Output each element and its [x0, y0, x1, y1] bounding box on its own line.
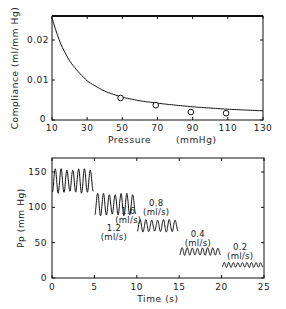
- top-x-axis-label-left: Pressure: [108, 135, 151, 145]
- y-tick-label: 0: [41, 273, 47, 283]
- x-tick-label: 0: [49, 282, 55, 292]
- y-tick-label: 50: [35, 238, 47, 248]
- figure: 1030507090110130 00.010.02 Pressure (mmH…: [0, 0, 286, 309]
- x-tick-label: 25: [258, 282, 270, 292]
- data-point-marker: [223, 110, 229, 116]
- bottom-x-ticks: 0510152025: [49, 158, 270, 292]
- flow-rate-unit: (ml/s): [101, 232, 127, 242]
- pulse-pressure-panel: 0510152025 050100150 1.6(ml/s)1.2(ml/s)0…: [16, 158, 270, 304]
- x-tick-label: 50: [116, 123, 128, 133]
- x-tick-label: 130: [254, 123, 273, 133]
- waveform-segment: [180, 248, 221, 256]
- x-tick-label: 110: [218, 123, 237, 133]
- bottom-x-axis-label: Time (s): [136, 294, 178, 304]
- top-y-axis-label: Compliance (ml/mm Hg): [10, 7, 20, 130]
- compliance-data-points: [118, 95, 229, 116]
- x-tick-label: 10: [46, 123, 58, 133]
- data-point-marker: [188, 109, 194, 115]
- data-point-marker: [118, 95, 124, 101]
- y-tick-label: 0.01: [27, 75, 49, 85]
- x-tick-label: 5: [91, 282, 97, 292]
- data-point-marker: [153, 102, 159, 108]
- x-tick-label: 20: [215, 282, 227, 292]
- x-tick-label: 70: [151, 123, 163, 133]
- bottom-y-axis-label: Pp (mm Hg): [16, 188, 26, 248]
- x-tick-label: 10: [131, 282, 143, 292]
- waveform-segment: [222, 263, 263, 268]
- waveform-segment: [53, 169, 94, 194]
- y-tick-label: 100: [28, 202, 47, 212]
- flow-rate-unit: (ml/s): [227, 251, 253, 261]
- y-tick-label: 150: [28, 167, 47, 177]
- compliance-panel: 1030507090110130 00.010.02 Pressure (mmH…: [10, 7, 272, 145]
- flow-rate-unit: (ml/s): [185, 238, 211, 248]
- x-tick-label: 15: [173, 282, 185, 292]
- y-tick-label: 0.02: [27, 35, 49, 45]
- top-x-axis-label-right: (mmHg): [176, 135, 217, 145]
- x-tick-label: 90: [186, 123, 198, 133]
- top-x-ticks: 1030507090110130: [46, 16, 273, 133]
- bottom-y-ticks: 050100150: [28, 167, 264, 283]
- waveform-segment: [137, 220, 178, 233]
- flow-rate-unit: (ml/s): [143, 207, 169, 217]
- x-tick-label: 30: [81, 123, 93, 133]
- compliance-fit-curve: [52, 18, 263, 111]
- y-tick-label: 0: [40, 114, 46, 124]
